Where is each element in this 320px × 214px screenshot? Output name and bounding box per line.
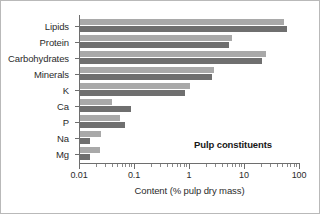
x-tick-minor: [122, 164, 123, 167]
y-tick: [75, 122, 79, 123]
y-category-label: P: [63, 116, 69, 127]
x-tick-major: [244, 164, 245, 169]
x-tick-minor: [129, 164, 130, 167]
y-tick: [75, 154, 79, 155]
bar-dark: [80, 42, 229, 48]
x-tick-minor: [131, 164, 132, 167]
x-tick-minor: [235, 164, 236, 167]
x-tick-minor: [227, 164, 228, 167]
y-tick: [75, 42, 79, 43]
x-tick-minor: [151, 164, 152, 167]
x-tick-minor: [105, 164, 106, 167]
bar-light: [80, 67, 214, 73]
x-tick-minor: [270, 164, 271, 167]
x-tick-minor: [232, 164, 233, 167]
x-tick-major: [299, 164, 300, 169]
y-category-label: Ca: [57, 100, 69, 111]
y-tick: [75, 106, 79, 107]
bar-light: [80, 99, 112, 105]
x-tick-minor: [180, 164, 181, 167]
x-tick-minor: [290, 164, 291, 167]
bar-light: [80, 83, 190, 89]
bar-dark: [80, 154, 90, 160]
y-category-label: K: [63, 84, 69, 95]
x-tick-minor: [96, 164, 97, 167]
y-category-label: Mg: [56, 148, 69, 159]
x-tick-major: [189, 164, 190, 169]
bar-dark: [80, 138, 90, 144]
x-axis-title: Content (% pulp dry mass): [79, 185, 300, 196]
bar-dark: [80, 122, 125, 128]
x-tick-major: [79, 164, 80, 169]
bar-light: [80, 19, 284, 25]
x-tick-minor: [167, 164, 168, 167]
x-tick-minor: [282, 164, 283, 167]
x-tick-minor: [215, 164, 216, 167]
bar-dark: [80, 26, 287, 32]
chart-annotation: Pulp constituents: [194, 139, 272, 150]
x-tick-label: 10: [239, 170, 249, 180]
y-category-label: Minerals: [34, 68, 69, 79]
bar-dark: [80, 106, 131, 112]
bar-dark: [80, 90, 185, 96]
x-tick-minor: [287, 164, 288, 167]
x-tick-minor: [261, 164, 262, 167]
bar-dark: [80, 58, 262, 64]
x-tick-label: 0.01: [70, 170, 87, 180]
y-category-label: Carbohydrates: [8, 52, 69, 63]
x-tick-minor: [277, 164, 278, 167]
x-tick-minor: [296, 164, 297, 167]
x-tick-label: 100: [292, 170, 307, 180]
x-tick-minor: [112, 164, 113, 167]
x-tick-minor: [172, 164, 173, 167]
y-category-label: Protein: [40, 36, 69, 47]
bar-light: [80, 51, 266, 57]
x-tick-label: 0.1: [128, 170, 140, 180]
bar-light: [80, 147, 100, 153]
x-tick-minor: [125, 164, 126, 167]
x-tick-minor: [294, 164, 295, 167]
x-tick-minor: [186, 164, 187, 167]
y-tick: [75, 138, 79, 139]
x-tick-major: [134, 164, 135, 169]
y-tick: [75, 90, 79, 91]
y-category-label: Na: [57, 132, 69, 143]
x-tick-minor: [222, 164, 223, 167]
y-tick: [75, 26, 79, 27]
x-tick-minor: [117, 164, 118, 167]
x-tick-minor: [206, 164, 207, 167]
y-category-label: Lipids: [45, 20, 69, 31]
bar-light: [80, 115, 120, 121]
x-tick-label: 1: [187, 170, 192, 180]
x-tick-minor: [177, 164, 178, 167]
x-tick-minor: [184, 164, 185, 167]
x-tick-minor: [239, 164, 240, 167]
x-tick-minor: [241, 164, 242, 167]
bar-light: [80, 131, 101, 137]
bar-dark: [80, 74, 212, 80]
y-tick: [75, 74, 79, 75]
y-tick: [75, 58, 79, 59]
x-tick-minor: [160, 164, 161, 167]
chart-figure: 0.010.1110100 LipidsProteinCarbohydrates…: [0, 0, 320, 214]
bar-light: [80, 35, 232, 41]
